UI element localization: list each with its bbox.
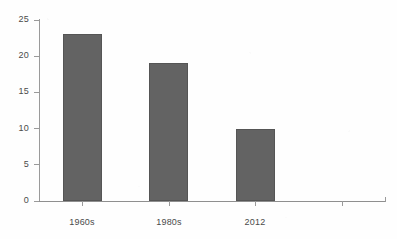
y-axis-tick-label: 20 — [5, 51, 29, 60]
x-axis-tick — [342, 201, 343, 206]
y-axis-tick-label: 25 — [5, 15, 29, 24]
y-axis-tick-label: 0 — [5, 196, 29, 205]
x-axis-tick — [255, 201, 256, 206]
y-axis-tick — [34, 164, 39, 165]
x-axis-tick — [169, 201, 170, 206]
x-axis-tick-label: 2012 — [220, 217, 290, 227]
x-axis-line — [39, 201, 386, 202]
y-axis-tick — [34, 56, 39, 57]
bar — [236, 129, 275, 201]
bar — [63, 34, 102, 201]
y-axis-tick-label: 5 — [5, 160, 29, 169]
y-axis-tick — [34, 20, 39, 21]
bar-chart: 0510152025 1960s1980s2012 — [0, 0, 397, 239]
y-axis-line — [39, 19, 40, 202]
y-axis-tick-label: 15 — [5, 87, 29, 96]
x-axis-tick — [82, 201, 83, 206]
scan-grain-overlay — [0, 0, 397, 239]
x-axis-end-cap — [385, 197, 386, 202]
y-axis-tick — [34, 128, 39, 129]
y-axis-tick-label: 10 — [5, 124, 29, 133]
y-axis-tick — [34, 92, 39, 93]
y-axis-tick — [34, 201, 39, 202]
x-axis-tick-label: 1960s — [47, 217, 117, 227]
x-axis-tick-label: 1980s — [134, 217, 204, 227]
bar — [149, 63, 188, 201]
